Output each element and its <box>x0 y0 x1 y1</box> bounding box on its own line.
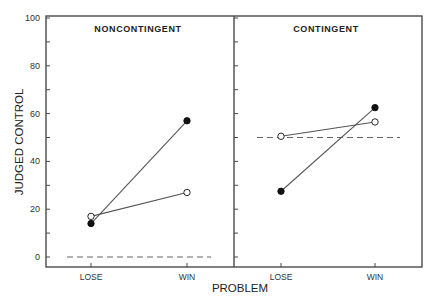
panel-titles: NONCONTINGENTCONTINGENT <box>94 24 358 34</box>
axis-ticks <box>46 18 375 267</box>
y-tick-label: 100 <box>25 13 40 23</box>
panel-title: NONCONTINGENT <box>94 24 181 34</box>
x-tick-labels: LOSEWINLOSEWIN <box>80 272 384 282</box>
chart-canvas: 020406080100 LOSEWINLOSEWIN NONCONTINGEN… <box>0 0 433 304</box>
filled-circle-marker <box>372 104 378 110</box>
x-tick-label: LOSE <box>80 272 103 282</box>
y-tick-label: 40 <box>30 156 40 166</box>
y-tick-label: 80 <box>30 61 40 71</box>
x-axis-title: PROBLEM <box>212 282 268 294</box>
series-line <box>281 122 375 136</box>
x-tick-label: WIN <box>367 272 384 282</box>
panel-title: CONTINGENT <box>293 24 359 34</box>
open-circle-marker <box>372 119 378 125</box>
x-tick-label: LOSE <box>270 272 293 282</box>
series-line <box>91 192 187 216</box>
y-axis-title: JUDGED CONTROL <box>13 88 25 195</box>
open-circle-marker <box>88 213 94 219</box>
data-series <box>88 104 378 226</box>
series-line <box>91 121 187 224</box>
series-line <box>281 108 375 192</box>
filled-circle-marker <box>278 188 284 194</box>
y-tick-label: 20 <box>30 204 40 214</box>
y-tick-label: 0 <box>35 252 40 262</box>
plot-frame <box>46 16 422 267</box>
x-tick-label: WIN <box>179 272 196 282</box>
open-circle-marker <box>278 133 284 139</box>
y-tick-labels: 020406080100 <box>25 13 40 262</box>
filled-circle-marker <box>88 220 94 226</box>
y-tick-label: 60 <box>30 109 40 119</box>
open-circle-marker <box>184 189 190 195</box>
filled-circle-marker <box>184 118 190 124</box>
